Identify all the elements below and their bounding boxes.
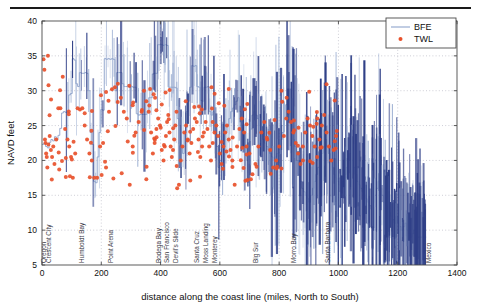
y-tick-label: 15 [28,190,38,200]
landmark-label: Moss Landing [202,223,210,263]
y-axis-label: NAVD feet [5,121,16,166]
landmark-label: Crescent City [45,224,53,263]
legend-group[interactable]: BFETWL [386,18,456,48]
y-tick-label: 20 [28,155,38,165]
y-tick-label: 25 [28,121,38,131]
landmark-label: Bodega Bay [155,227,163,263]
y-tick-label: 40 [28,16,38,26]
bfe-series-group [42,0,442,265]
legend-label-twl: TWL [414,34,433,44]
x-tick-label: 400 [153,268,167,278]
x-tick-label: 1200 [388,268,407,278]
landmark-label: Big Sur [252,241,260,263]
y-tick-label: 35 [28,51,38,61]
landmark-label: Humboldt Bay [78,222,86,263]
x-tick-label: 600 [213,268,227,278]
x-tick-label: 1000 [329,268,348,278]
landmark-label: Monterey [211,236,219,263]
landmark-label: Point Arena [107,230,114,263]
y-tick-label: 5 [32,260,37,270]
landmark-label: Mexico [425,242,432,263]
x-tick-label: 1400 [448,268,467,278]
chart-svg: 0200400600800100012001400 51015202530354… [0,0,480,308]
y-tick-label: 10 [28,225,38,235]
landmark-label: Santa Cruz [193,231,200,263]
landmark-label: Morro Bay [290,233,298,263]
landmark-label: Santa Barbara [324,221,331,263]
x-tick-label: 200 [94,268,108,278]
legend-label-bfe: BFE [414,22,432,32]
landmark-label: San Francisco [163,222,170,263]
x-tick-label: 0 [40,268,45,278]
x-tick-label: 800 [272,268,286,278]
x-tick-labels: 0200400600800100012001400 [40,268,467,278]
chart-plot-area: 0200400600800100012001400 51015202530354… [0,0,480,308]
y-tick-labels: 510152025303540 [28,16,38,270]
y-tick-label: 30 [28,86,38,96]
landmark-label: Devil's Slide [172,228,179,263]
x-axis-label: distance along the coast line (miles, No… [141,291,359,302]
figure-container: 0200400600800100012001400 51015202530354… [0,0,480,308]
